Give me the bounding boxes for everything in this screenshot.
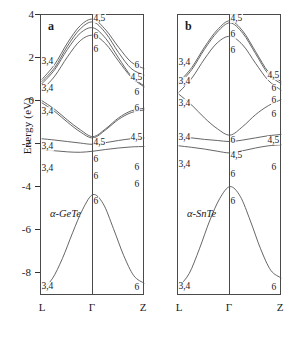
band-label: 3,4 xyxy=(178,99,191,108)
band-label: 3,4 xyxy=(41,164,54,173)
y-tick-label: -4 xyxy=(9,182,31,190)
band-label: 6 xyxy=(93,197,99,206)
band-label: 3,4 xyxy=(178,282,191,291)
y-tick-label: 0 xyxy=(12,96,34,104)
y-tick-label: -6 xyxy=(9,225,31,233)
band-label: 3,4 xyxy=(178,58,191,67)
band-curve xyxy=(42,146,144,152)
panel-a: a α-GeTe xyxy=(40,14,144,295)
band-label: 4,5 xyxy=(130,73,143,82)
band-label: 3,4 xyxy=(178,133,191,142)
band-label: 3,4 xyxy=(41,107,54,116)
band-label: 4,5 xyxy=(230,14,243,23)
band-label: 6 xyxy=(230,197,236,206)
band-label: 3,4 xyxy=(41,142,54,151)
x-tick-label-L: L xyxy=(171,301,187,313)
band-structure-figure: Energy (eV) 4 2 0 -2 -4 -6 -8 a α-GeTe 3… xyxy=(0,0,297,340)
band-label: 4,5 xyxy=(267,136,280,145)
band-label: 6 xyxy=(134,61,140,70)
panel-b: b α-SnTe xyxy=(177,14,281,295)
y-tick-label: -8 xyxy=(9,268,31,276)
band-label: 6 xyxy=(271,110,277,119)
panel-b-tag: b xyxy=(185,19,192,34)
band-label: 6 xyxy=(134,163,140,172)
band-curve xyxy=(42,101,144,137)
band-label: 3,4 xyxy=(178,160,191,169)
band-label: 4,5 xyxy=(267,71,280,80)
x-tick-label-gamma: Γ xyxy=(84,301,100,313)
panel-a-material: α-GeTe xyxy=(50,208,81,219)
band-label: 6 xyxy=(93,45,99,54)
band-label: 4,5 xyxy=(93,14,106,23)
band-label: 6 xyxy=(93,172,99,181)
band-label: 6 xyxy=(230,46,236,55)
band-label: 6 xyxy=(230,30,236,39)
band-label: 6 xyxy=(93,32,99,41)
band-label: 4,5 xyxy=(93,138,106,147)
band-label: 6 xyxy=(93,155,99,164)
band-label: 6 xyxy=(271,84,277,93)
y-tick-label: -2 xyxy=(9,139,31,147)
band-curve xyxy=(42,103,144,138)
band-label: 6 xyxy=(134,88,140,97)
band-label: 3,4 xyxy=(41,57,54,66)
x-tick-label-L: L xyxy=(34,301,50,313)
band-curve xyxy=(179,94,281,135)
band-label: 6 xyxy=(134,180,140,189)
band-label: 3,4 xyxy=(178,77,191,86)
band-label: 6 xyxy=(271,283,277,292)
band-label: 4,5 xyxy=(130,133,143,142)
band-label: 6 xyxy=(271,96,277,105)
band-label: 6 xyxy=(230,136,236,145)
band-label: 6 xyxy=(230,170,236,179)
y-tick-label: 2 xyxy=(12,53,34,61)
panel-b-material: α-SnTe xyxy=(187,208,216,219)
y-tick-label: 4 xyxy=(12,10,34,18)
x-tick-label-Z: Z xyxy=(272,301,288,313)
x-tick-label-gamma: Γ xyxy=(221,301,237,313)
band-label: 3,4 xyxy=(41,84,54,93)
band-label: 3,4 xyxy=(41,282,54,291)
panel-a-tag: a xyxy=(48,19,54,34)
y-axis-title: Energy (eV) xyxy=(21,71,33,181)
band-label: 4,5 xyxy=(230,151,243,160)
band-label: 6 xyxy=(134,283,140,292)
band-label: 6 xyxy=(134,104,140,113)
band-label: 6 xyxy=(271,163,277,172)
x-tick-label-Z: Z xyxy=(135,301,151,313)
